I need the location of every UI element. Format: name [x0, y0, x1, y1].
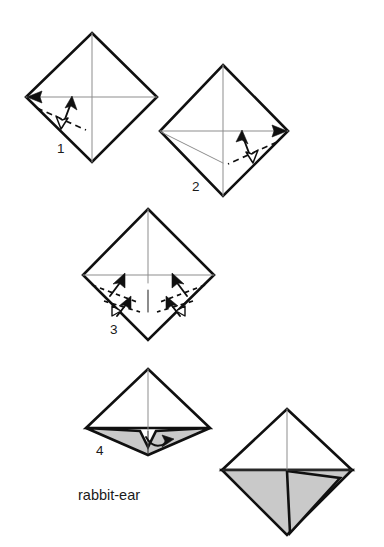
step-3-figure: 3 [83, 209, 214, 340]
step-2-figure: 2 [160, 65, 288, 196]
caption-rabbit-ear: rabbit-ear [78, 487, 140, 503]
origami-diagram-canvas: 1 2 [0, 0, 384, 547]
step-4-figure: 4 [86, 369, 210, 458]
origami-diagram-root: 1 2 [0, 0, 384, 547]
step-2-number: 2 [192, 179, 200, 194]
step-1-number: 1 [57, 141, 65, 156]
step-3-number: 3 [110, 322, 118, 337]
finished-swung-flap [287, 471, 340, 533]
step-4-number: 4 [96, 443, 104, 458]
step-1-figure: 1 [26, 33, 157, 162]
finished-figure [222, 409, 352, 535]
